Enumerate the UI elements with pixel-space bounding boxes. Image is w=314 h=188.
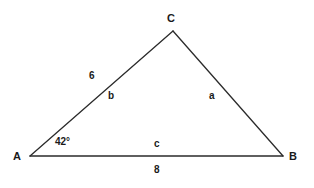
side-length-label-b: 6 xyxy=(89,71,95,81)
vertex-label-a: A xyxy=(13,151,21,162)
angle-label-a: 42° xyxy=(55,137,70,147)
triangle-diagram: C A B b a c 6 8 42° xyxy=(0,0,314,188)
side-label-b: b xyxy=(108,91,114,101)
side-a-line xyxy=(173,31,283,156)
side-label-a: a xyxy=(209,91,215,101)
side-b-line xyxy=(30,31,173,156)
triangle-shape xyxy=(0,0,314,188)
vertex-label-c: C xyxy=(167,13,175,24)
side-label-c: c xyxy=(154,139,160,149)
side-length-label-c: 8 xyxy=(154,165,160,175)
vertex-label-b: B xyxy=(289,151,297,162)
